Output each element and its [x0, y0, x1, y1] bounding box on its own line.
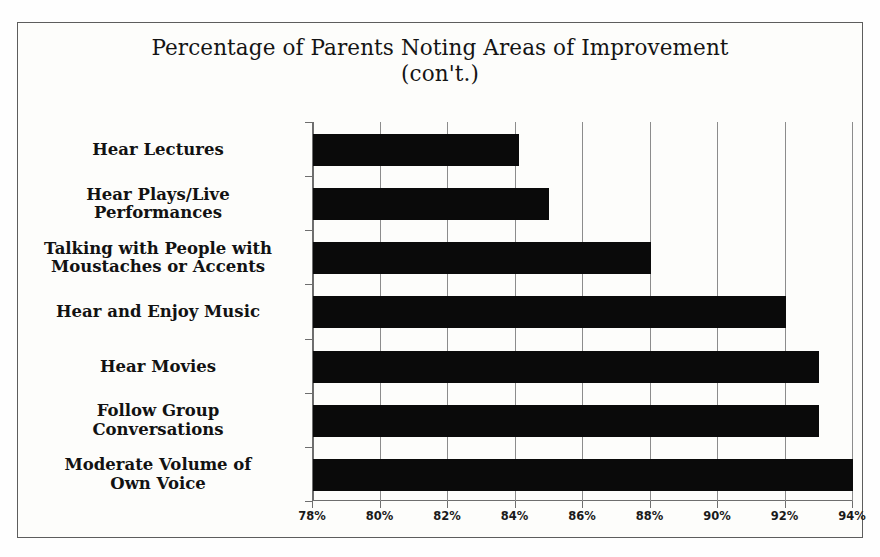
x-tick-84%	[515, 501, 516, 508]
x-tick-label: 92%	[755, 509, 815, 523]
category-label-line: Talking with People with	[18, 240, 298, 258]
x-tick-78%	[312, 501, 313, 508]
x-tick-label: 90%	[687, 509, 747, 523]
category-label: Follow GroupConversations	[18, 402, 298, 439]
category-label: Hear and Enjoy Music	[18, 303, 298, 321]
category-label: Hear Lectures	[18, 141, 298, 159]
y-tick	[305, 230, 312, 231]
bar	[313, 459, 853, 491]
x-tick-label: 80%	[350, 509, 410, 523]
category-label-line: Own Voice	[18, 475, 298, 493]
bar	[313, 351, 819, 383]
x-tick-label: 82%	[417, 509, 477, 523]
bar	[313, 134, 519, 166]
chart-title-line-1: Percentage of Parents Noting Areas of Im…	[151, 35, 728, 60]
category-label-line: Hear Lectures	[18, 141, 298, 159]
category-label-line: Hear Plays/Live	[18, 186, 298, 204]
x-tick-label: 78%	[282, 509, 342, 523]
chart-title-line-2: (con't.)	[18, 61, 862, 87]
category-label-line: Moustaches or Accents	[18, 258, 298, 276]
bar	[313, 405, 819, 437]
category-label: Moderate Volume ofOwn Voice	[18, 456, 298, 493]
x-tick-90%	[717, 501, 718, 508]
x-tick-92%	[785, 501, 786, 508]
bar	[313, 296, 786, 328]
scanned-page: Percentage of Parents Noting Areas of Im…	[0, 0, 880, 557]
y-tick	[305, 501, 312, 502]
chart-title: Percentage of Parents Noting Areas of Im…	[18, 35, 862, 87]
x-tick-94%	[852, 501, 853, 508]
x-tick-80%	[380, 501, 381, 508]
x-tick-label: 94%	[822, 509, 880, 523]
y-tick	[305, 122, 312, 123]
category-label-line: Conversations	[18, 421, 298, 439]
x-tick-label: 88%	[620, 509, 680, 523]
category-axis-labels: Hear LecturesHear Plays/LivePerformances…	[18, 122, 306, 501]
category-label-line: Performances	[18, 204, 298, 222]
x-tick-88%	[650, 501, 651, 508]
y-tick	[305, 393, 312, 394]
category-label: Hear Movies	[18, 358, 298, 376]
bar	[313, 242, 651, 274]
category-label: Talking with People withMoustaches or Ac…	[18, 240, 298, 277]
x-tick-82%	[447, 501, 448, 508]
x-tick-label: 84%	[485, 509, 545, 523]
category-label-line: Follow Group	[18, 402, 298, 420]
category-label: Hear Plays/LivePerformances	[18, 186, 298, 223]
bar	[313, 188, 549, 220]
category-label-line: Hear Movies	[18, 358, 298, 376]
y-tick	[305, 447, 312, 448]
category-label-line: Hear and Enjoy Music	[18, 303, 298, 321]
chart-frame: Percentage of Parents Noting Areas of Im…	[17, 22, 863, 538]
y-tick	[305, 339, 312, 340]
plot-area	[312, 122, 852, 501]
category-label-line: Moderate Volume of	[18, 456, 298, 474]
x-tick-label: 86%	[552, 509, 612, 523]
y-tick	[305, 176, 312, 177]
y-tick	[305, 284, 312, 285]
gridline-94%	[852, 122, 853, 501]
x-tick-86%	[582, 501, 583, 508]
